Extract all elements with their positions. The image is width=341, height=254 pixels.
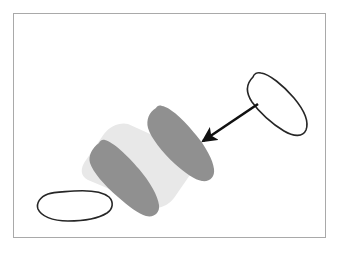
assembly-arrow bbox=[203, 104, 258, 141]
figure-root: Shoe insole assembly diagram bbox=[0, 0, 341, 254]
outlined-insole-lower-left bbox=[37, 191, 112, 221]
figure-canvas bbox=[0, 0, 341, 254]
